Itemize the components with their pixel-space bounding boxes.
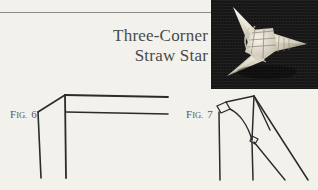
fig7-upper-splayed-straw [255,98,270,130]
fig7-inner-splayed-straw [254,142,285,180]
fig7-outer-splayed-straw [254,96,308,180]
fig6-lower-horizontal-straw [66,112,168,114]
fig7-fold-right-edge [252,96,254,140]
page-title: Three-Corner Straw Star [40,26,208,66]
fig6-diagonal-straw [38,95,65,112]
header-rule [0,12,212,13]
figure-7-label-separator: . [201,110,203,120]
photo-shadow [237,65,297,79]
fig7-fold-curve [230,109,252,140]
fig7-top-left-edge [226,96,254,102]
figure-7-label-small: IG [192,110,201,120]
figure-6-drawing [0,88,180,190]
page-root: Three-Corner Straw Star [0,0,318,190]
fig7-left-vertical-straw [219,112,220,180]
fig7-center-vertical-straw [252,142,253,180]
fig6-right-vertical-straw [65,95,66,178]
straw-star-photo [211,0,318,89]
title-line-2: Straw Star [40,46,208,66]
fig6-left-vertical-straw [38,112,41,178]
title-line-1: Three-Corner [40,26,208,46]
figure-7-label: FIG. 7 [186,104,213,122]
figure-7-drawing [210,92,318,190]
straw-star-photo-image [211,0,318,89]
fig6-upper-horizontal-straw [65,95,168,97]
